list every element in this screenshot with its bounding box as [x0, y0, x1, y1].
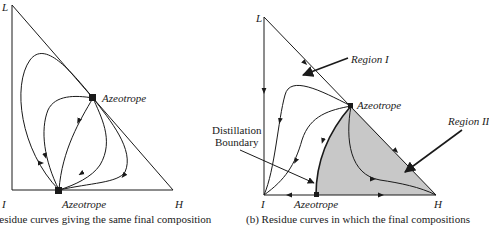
azeotrope-node-bottom-a	[55, 187, 62, 194]
azeotrope-label-bottom: Azeotrope	[62, 199, 106, 210]
azeotrope-node-top-a	[89, 94, 96, 101]
residue-curve	[21, 54, 93, 190]
distillation-label-line2: Boundary	[215, 137, 258, 148]
vertex-label-i: I	[2, 199, 6, 210]
distillation-label-line1: Distillation	[212, 125, 262, 136]
region-i-pointer	[303, 58, 348, 75]
caption-a: Residue curves giving the same final com…	[0, 214, 211, 225]
vertex-label-h-b: H	[434, 199, 442, 210]
azeotrope-node-top-b	[348, 103, 353, 108]
azeotrope-label-top-b: Azeotrope	[357, 100, 401, 111]
region-ii-label: Region II	[448, 116, 489, 127]
residue-curve	[59, 98, 106, 190]
vertex-label-l: L	[2, 2, 8, 13]
region-ii-pointer	[405, 130, 462, 172]
azeotrope-label-top: Azeotrope	[102, 93, 146, 104]
boundary-pointer	[240, 150, 314, 183]
azeotrope-label-bottom-b: Azeotrope	[294, 199, 338, 210]
caption-b: (b) Residue curves in which the final co…	[246, 214, 470, 225]
residue-curve	[59, 98, 93, 190]
vertex-label-h: H	[175, 199, 183, 210]
vertex-label-l-b: L	[256, 13, 262, 24]
azeotrope-node-bottom-b	[314, 192, 319, 197]
region-i-label: Region I	[351, 54, 389, 65]
vertex-label-i-b: I	[261, 199, 265, 210]
region-ii-shading	[316, 106, 436, 195]
